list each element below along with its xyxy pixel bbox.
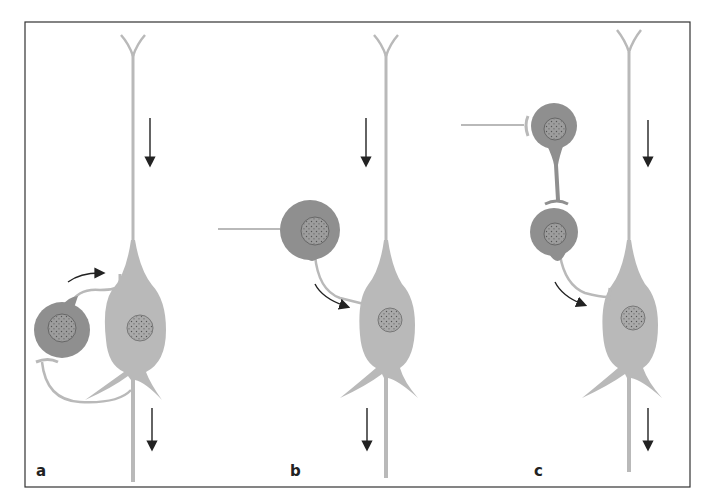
interneuron-c-lower: [530, 208, 610, 306]
curved-arrow-icon: [68, 273, 100, 282]
figure-frame: [25, 22, 690, 487]
panel-b: [218, 35, 418, 478]
interneuron-b: [218, 200, 367, 312]
panel-c: [461, 30, 662, 472]
interneuron-c-upper: [461, 103, 577, 204]
curved-arrow-icon: [555, 282, 582, 304]
neuron-circuit-diagram: [0, 0, 708, 500]
panel-label-a: a: [36, 462, 46, 480]
pyramidal-neuron-b: [340, 35, 418, 478]
panel-label-b: b: [290, 462, 301, 480]
pyramidal-neuron-c: [582, 30, 662, 472]
panel-label-c: c: [534, 462, 543, 480]
pyramidal-neuron-a: [85, 35, 166, 482]
panel-a: [34, 35, 166, 482]
curved-arrow-icon: [315, 284, 345, 306]
